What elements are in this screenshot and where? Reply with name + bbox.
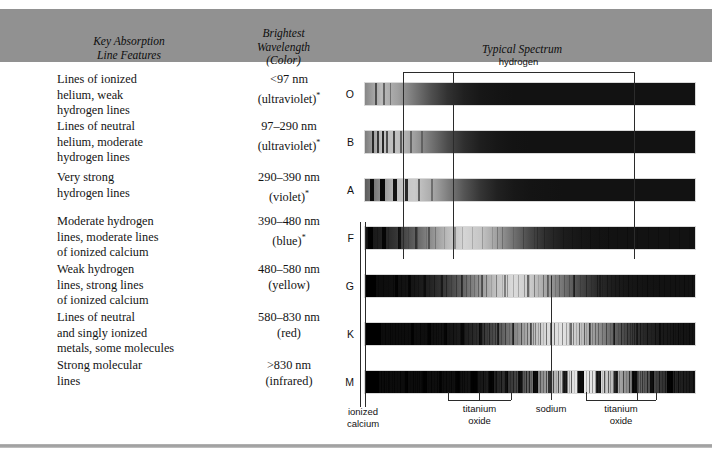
absorption-line-fine <box>522 371 523 393</box>
absorption-line-fine <box>491 275 492 297</box>
absorption-line <box>537 227 538 249</box>
feature-text-line: lines <box>57 374 227 390</box>
absorption-line-fine <box>468 323 469 345</box>
absorption-line-fine <box>648 227 649 249</box>
absorption-line-fine <box>460 323 461 345</box>
absorption-line-fine <box>607 275 608 297</box>
absorption-line-fine <box>581 323 582 345</box>
absorption-line-fine <box>373 275 374 297</box>
absorption-line-fine <box>381 371 382 393</box>
feature-text-line: Lines of neutral <box>57 119 227 135</box>
absorption-line-fine <box>513 275 514 297</box>
absorption-line-fine <box>395 323 396 345</box>
absorption-line-fine <box>523 227 524 249</box>
absorption-line-fine <box>653 371 654 393</box>
feature-cell-g: Weak hydrogenlines, strong linesof ioniz… <box>57 262 227 309</box>
wavelength-cell-b: 97–290 nm(ultraviolet)* <box>230 119 348 154</box>
absorption-line-fine <box>678 371 679 393</box>
absorption-line-fine <box>592 371 593 393</box>
absorption-line-fine <box>449 323 450 345</box>
absorption-line-fine <box>397 275 398 297</box>
absorption-lines <box>365 179 695 201</box>
absorption-line <box>424 275 426 297</box>
absorption-line-fine <box>440 275 441 297</box>
absorption-line-fine <box>678 323 679 345</box>
absorption-line-fine <box>665 371 666 393</box>
absorption-line <box>441 275 443 297</box>
absorption-line-fine <box>401 275 402 297</box>
absorption-line-fine <box>435 227 436 249</box>
absorption-line-fine <box>382 323 383 345</box>
absorption-line-fine <box>367 275 368 297</box>
absorption-line-fine <box>370 371 371 393</box>
wavelength-color: (blue)* <box>230 230 348 250</box>
spectra-column: OBAFGKM <box>338 62 708 444</box>
absorption-line <box>400 131 402 153</box>
absorption-line-fine <box>628 275 629 297</box>
absorption-line-fine <box>427 323 428 345</box>
absorption-line-fine <box>383 275 384 297</box>
absorption-line-fine <box>404 323 405 345</box>
absorption-line-fine <box>428 371 429 393</box>
absorption-line-fine <box>605 371 606 393</box>
absorption-line-fine <box>436 323 437 345</box>
absorption-line-fine <box>398 323 399 345</box>
spectral-class-label-b: B <box>338 136 354 148</box>
absorption-line-fine <box>404 371 405 393</box>
absorption-line-fine <box>517 323 518 345</box>
absorption-line-fine <box>642 275 643 297</box>
absorption-line-fine <box>606 323 607 345</box>
absorption-lines <box>365 227 695 249</box>
footnote-marker: * <box>316 138 320 147</box>
absorption-line <box>368 227 373 249</box>
absorption-line-fine <box>524 323 525 345</box>
absorption-line-fine <box>574 371 575 393</box>
feature-text-line: lines, moderate lines <box>57 230 227 246</box>
absorption-line-fine <box>647 323 648 345</box>
absorption-line-fine <box>408 323 409 345</box>
absorption-line-fine <box>377 227 378 249</box>
absorption-line-fine <box>529 275 530 297</box>
absorption-line-fine <box>379 323 380 345</box>
wavelength-value: 97–290 nm <box>230 119 348 135</box>
absorption-line-fine <box>444 227 445 249</box>
absorption-line-fine <box>388 323 389 345</box>
absorption-line-fine <box>589 323 590 345</box>
absorption-line-fine <box>546 371 547 393</box>
absorption-line-fine <box>551 275 552 297</box>
absorption-line-fine <box>586 275 587 297</box>
absorption-line-fine <box>388 227 389 249</box>
absorption-line-fine <box>621 323 622 345</box>
absorption-line-fine <box>423 275 424 297</box>
absorption-line-fine <box>619 275 620 297</box>
absorption-line-fine <box>405 275 406 297</box>
absorption-line-fine <box>550 323 551 345</box>
feature-text-line: Lines of ionized <box>57 72 227 88</box>
absorption-line-fine <box>683 371 684 393</box>
absorption-line-fine <box>619 371 620 393</box>
absorption-line-fine <box>680 371 681 393</box>
absorption-line-fine <box>412 323 413 345</box>
top-margin <box>0 0 712 9</box>
absorption-line-fine <box>484 323 485 345</box>
absorption-line-fine <box>679 227 680 249</box>
absorption-line-fine <box>599 227 600 249</box>
absorption-line-fine <box>673 323 674 345</box>
absorption-line-fine <box>692 323 693 345</box>
absorption-line-fine <box>502 227 503 249</box>
column-header-brightest-wavelength: Brightest Wavelength (Color) <box>216 27 351 68</box>
column-header-key-absorption-line-features: Key Absorption Line Features <box>34 35 224 62</box>
absorption-line-fine <box>451 275 452 297</box>
absorption-line-fine <box>534 227 535 249</box>
wavelength-cell-g: 480–580 nm(yellow) <box>230 262 348 293</box>
absorption-line-fine <box>367 371 368 393</box>
absorption-line-fine <box>476 323 477 345</box>
absorption-line-fine <box>441 323 442 345</box>
absorption-line-fine <box>543 371 544 393</box>
absorption-line-fine <box>659 323 660 345</box>
absorption-line-fine <box>394 371 395 393</box>
absorption-line-fine <box>376 371 377 393</box>
absorption-line-fine <box>563 227 564 249</box>
absorption-line-fine <box>576 323 577 345</box>
absorption-line-fine <box>656 371 657 393</box>
